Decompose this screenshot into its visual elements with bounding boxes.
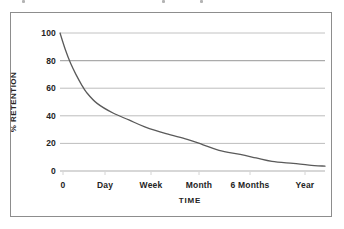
y-axis-title: % RETENTION	[9, 72, 18, 133]
retention-curve-figure: 100 80 60 40 20 0 0 Day Week Month 6 Mon…	[0, 0, 344, 229]
y-tick-label-80: 80	[34, 56, 56, 66]
x-tick-label-6months: 6 Months	[231, 180, 270, 190]
y-tick-label-0: 0	[34, 166, 56, 176]
y-gridlines	[60, 33, 325, 171]
x-tick-label-day: Day	[97, 180, 113, 190]
y-tick-label-60: 60	[34, 83, 56, 93]
x-tick-label-year: Year	[296, 180, 315, 190]
x-tick-label-0: 0	[61, 180, 66, 190]
x-tick-label-month: Month	[186, 180, 213, 190]
y-tick-label-20: 20	[34, 138, 56, 148]
y-tick-label-40: 40	[34, 111, 56, 121]
y-tick-label-100: 100	[34, 28, 56, 38]
x-axis-ticks	[63, 172, 305, 175]
x-axis-title: TIME	[179, 196, 202, 205]
x-tick-label-week: Week	[140, 180, 163, 190]
retention-curve-line	[60, 33, 325, 166]
